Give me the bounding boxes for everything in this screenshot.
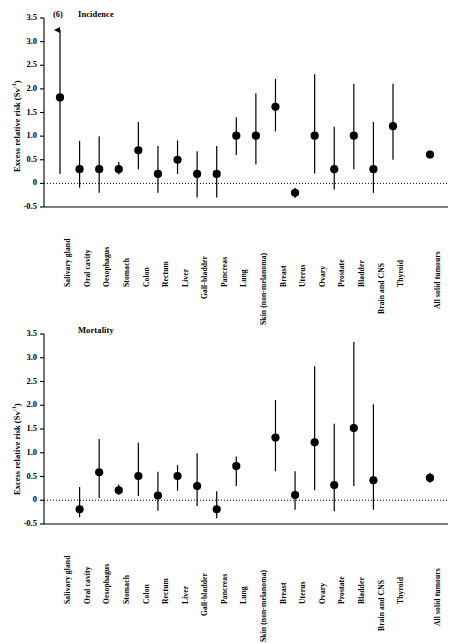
data-point-group (330, 127, 338, 190)
x-axis-category-label: Breast (279, 582, 288, 604)
x-axis-category-label: Liver (181, 586, 190, 604)
x-axis-category-label: Gall-bladder (200, 573, 209, 616)
data-point-group (311, 366, 319, 490)
data-point-group (291, 188, 299, 198)
x-axis-category-label: Colon (142, 267, 151, 287)
data-point-marker (134, 472, 142, 480)
x-axis-category-label: Bladder (357, 577, 366, 604)
y-axis-tick-label: 3.0 (0, 352, 37, 362)
x-axis-category-label: Stomach (122, 258, 131, 287)
data-point-group (252, 93, 260, 164)
data-point-group (389, 84, 397, 160)
data-point-marker (291, 189, 299, 197)
data-point-marker (75, 505, 83, 513)
x-axis-category-label: Lung (239, 586, 248, 604)
x-axis-category-label: Prostate (337, 576, 346, 604)
figure-root: Incidence (6) Excess relative risk (Sv-1… (0, 0, 455, 643)
x-axis-category-label: Colon (142, 584, 151, 604)
data-point-marker (115, 165, 123, 173)
x-axis-category-label: Rectum (161, 578, 170, 604)
data-point-group (56, 30, 64, 174)
x-axis-category-label: Lung (239, 269, 248, 287)
y-axis-tick-label: 0 (0, 177, 37, 187)
x-axis-category-label: Thyroid (396, 577, 405, 604)
y-axis-tick-label: 1.5 (0, 423, 37, 433)
data-point-group (350, 84, 358, 170)
data-point-marker (134, 146, 142, 154)
x-axis-category-label: Oesophagus (102, 564, 111, 604)
data-point-group (350, 342, 358, 486)
x-axis-category-label: Oesophagus (102, 247, 111, 287)
data-point-marker (350, 132, 358, 140)
data-point-marker (389, 122, 397, 130)
x-axis-category-label: Uterus (298, 581, 307, 604)
x-axis-category-label: Skin (non-melanoma) (259, 253, 268, 325)
data-point-marker (350, 424, 358, 432)
data-point-marker (232, 132, 240, 140)
data-point-marker (311, 438, 319, 446)
x-axis-category-label: Ovary (318, 583, 327, 604)
y-axis-tick-label: 1.5 (0, 107, 37, 117)
data-point-marker (252, 132, 260, 140)
data-point-group (426, 150, 434, 158)
data-point-group (369, 122, 377, 193)
data-point-group (311, 74, 319, 173)
data-point-marker (115, 486, 123, 494)
x-axis-category-label: Pancreas (220, 574, 229, 604)
data-point-group (134, 122, 142, 169)
data-point-marker (369, 476, 377, 484)
x-axis-category-label: Brain and CNS (377, 263, 386, 314)
x-axis-category-label: Oral cavity (83, 566, 92, 604)
x-axis-category-label: All solid tumours (433, 568, 442, 626)
data-point-marker (95, 468, 103, 476)
y-axis-tick-label: 2.5 (0, 59, 37, 69)
data-point-marker (154, 170, 162, 178)
data-point-group (291, 471, 299, 509)
data-point-group (271, 400, 279, 471)
data-point-marker (193, 482, 201, 490)
data-point-marker (330, 165, 338, 173)
data-point-marker (426, 150, 434, 158)
data-point-marker (291, 491, 299, 499)
y-axis-tick-label: -0.5 (0, 201, 37, 211)
data-point-group (232, 457, 240, 486)
data-point-marker (232, 462, 240, 470)
x-axis-category-label: Salivary gland (63, 239, 72, 287)
data-point-marker (213, 505, 221, 513)
x-axis-category-label: Stomach (122, 575, 131, 604)
data-point-marker (154, 491, 162, 499)
data-point-marker (271, 103, 279, 111)
data-point-marker (173, 156, 181, 164)
data-point-marker (330, 481, 338, 489)
x-axis-category-label: Bladder (357, 260, 366, 287)
panel-mortality: Mortality Excess relative risk (Sv-1) -0… (0, 320, 455, 643)
data-point-group (154, 146, 162, 193)
data-point-group (134, 443, 142, 496)
panel-incidence: Incidence (6) Excess relative risk (Sv-1… (0, 0, 455, 320)
x-axis-category-label: Liver (181, 269, 190, 287)
x-axis-category-label: Skin (non-melanoma) (259, 570, 268, 642)
data-point-group (271, 79, 279, 131)
data-point-group (173, 465, 181, 491)
x-axis-category-label: Gall-bladder (200, 256, 209, 299)
x-axis-category-label: Thyroid (396, 260, 405, 287)
data-point-marker (369, 165, 377, 173)
data-point-group (193, 453, 201, 506)
data-point-group (426, 473, 434, 483)
x-axis-category-label: Salivary gland (63, 556, 72, 604)
x-axis-category-label: Uterus (298, 264, 307, 287)
y-axis-tick-label: 3.5 (0, 12, 37, 22)
data-point-marker (193, 170, 201, 178)
y-axis-tick-label: 3.0 (0, 36, 37, 46)
data-point-group (193, 151, 201, 197)
x-axis-category-label: Ovary (318, 266, 327, 287)
x-axis-category-label: Pancreas (220, 257, 229, 287)
data-point-marker (311, 132, 319, 140)
data-point-group (75, 141, 83, 188)
y-axis-tick-label: 2.0 (0, 83, 37, 93)
data-point-marker (75, 165, 83, 173)
y-axis-tick-label: 2.5 (0, 376, 37, 386)
data-point-group (173, 140, 181, 174)
x-axis-category-label: Brain and CNS (377, 580, 386, 631)
data-point-group (154, 472, 162, 511)
